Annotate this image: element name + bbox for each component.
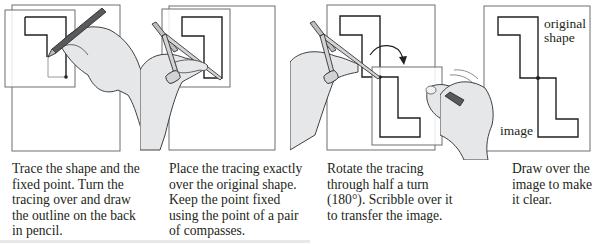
caption-line: Draw over the [512, 161, 596, 177]
image-label: image [500, 124, 533, 138]
step-1-illustration [0, 0, 150, 160]
label-line: original [544, 17, 586, 31]
step-3-illustration [290, 0, 460, 160]
step-4-caption: Draw over the image to make it clear. [512, 161, 596, 208]
caption-line: the outline on the back [12, 208, 152, 224]
step-3-rotate: Rotate the tracing through half a turn (… [290, 0, 460, 244]
step-1-trace: Trace the shape and the fixed point. Tur… [0, 0, 150, 244]
caption-line: fixed point. Turn the [12, 177, 152, 193]
label-line: shape [544, 31, 586, 45]
caption-line: it clear. [512, 192, 596, 208]
fixed-point [536, 76, 540, 80]
cut-off-text-line [0, 238, 596, 244]
original-shape-label: original shape [544, 17, 586, 45]
step-2-place: Place the tracing exactly over the origi… [140, 0, 300, 244]
fixed-point [64, 75, 68, 79]
step-4-draw: original shape image Draw over the image… [440, 0, 596, 244]
caption-line: tracing over and draw [12, 192, 152, 208]
step-2-illustration [140, 0, 300, 160]
caption-line: Trace the shape and the [12, 161, 152, 177]
caption-line: image to make [512, 177, 596, 193]
caption-line: in pencil. [12, 223, 152, 239]
step-1-caption: Trace the shape and the fixed point. Tur… [12, 161, 152, 239]
